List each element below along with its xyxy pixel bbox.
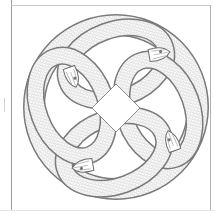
- page-border-right: [210, 5, 211, 210]
- page-border-bottom: [0, 210, 215, 211]
- adjacent-page-edge: [0, 98, 5, 112]
- serpent-knot-illustration: [12, 6, 210, 210]
